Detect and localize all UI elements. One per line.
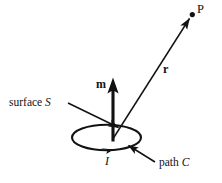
magnetic-dipole-figure: surface S path C m r P I <box>0 0 222 183</box>
surface-leader-line <box>68 103 119 128</box>
field-point-marker <box>190 12 195 17</box>
field-point-label: P <box>197 3 204 16</box>
path-leader-line <box>129 146 156 163</box>
path-label: path C <box>159 157 189 169</box>
current-label: I <box>105 155 109 167</box>
path-label-prefix: path <box>159 156 179 168</box>
surface-label: surface S <box>9 97 51 109</box>
surface-label-symbol: S <box>45 96 51 108</box>
position-vector-arrow <box>113 19 190 140</box>
path-label-symbol: C <box>182 156 190 168</box>
magnetic-moment-label: m <box>96 78 106 90</box>
surface-label-prefix: surface <box>9 96 42 108</box>
position-vector-label: r <box>163 63 168 75</box>
